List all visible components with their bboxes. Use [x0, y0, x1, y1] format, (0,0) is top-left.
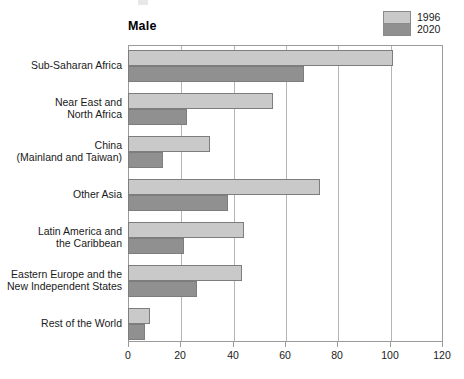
x-tick-40 — [233, 342, 234, 347]
bar-chart: 1996 2020 Male Sub-Saharan AfricaNear Ea… — [0, 0, 464, 379]
bar-2020 — [128, 66, 304, 82]
bar-1996 — [128, 93, 273, 109]
bar-group — [129, 93, 442, 125]
legend-swatch-1996 — [384, 12, 410, 24]
legend-swatch-stack — [383, 11, 411, 36]
x-tick-label: 0 — [125, 349, 131, 362]
x-tick-80 — [337, 342, 338, 347]
scan-artifact — [138, 0, 148, 5]
chart-legend: 1996 2020 — [383, 11, 440, 36]
x-axis-labels: 020406080100120 — [0, 349, 464, 365]
bar-1996 — [128, 308, 150, 324]
x-tick-label: 60 — [279, 349, 291, 362]
bar-1996 — [128, 50, 393, 66]
bar-2020 — [128, 152, 163, 168]
category-label: Rest of the World — [0, 317, 122, 329]
category-label: Near East andNorth Africa — [0, 96, 122, 120]
bar-group — [129, 136, 442, 168]
chart-title: Male — [128, 19, 157, 33]
x-tick-0 — [128, 342, 129, 347]
x-tick-100 — [390, 342, 391, 347]
x-tick-label: 100 — [381, 349, 399, 362]
bar-1996 — [128, 179, 320, 195]
legend-label-2020: 2020 — [417, 23, 440, 35]
category-label-line: Latin America and — [0, 225, 122, 237]
x-tick-60 — [285, 342, 286, 347]
x-tick-120 — [442, 342, 443, 347]
category-label: Latin America andthe Caribbean — [0, 225, 122, 249]
bar-group — [129, 308, 442, 340]
legend-label-1996: 1996 — [417, 11, 440, 23]
category-label-line: China — [0, 139, 122, 151]
category-label-line: Rest of the World — [0, 317, 122, 329]
bar-1996 — [128, 265, 242, 281]
category-label-line: Sub-Saharan Africa — [0, 59, 122, 71]
x-tick-label: 80 — [331, 349, 343, 362]
bar-2020 — [128, 238, 184, 254]
category-label-line: North Africa — [0, 108, 122, 120]
bar-2020 — [128, 281, 197, 297]
category-label: Sub-Saharan Africa — [0, 59, 122, 71]
bar-2020 — [128, 109, 187, 125]
category-label: Eastern Europe and theNew Independent St… — [0, 268, 122, 292]
bar-2020 — [128, 195, 228, 211]
x-tick-label: 40 — [227, 349, 239, 362]
category-label: Other Asia — [0, 188, 122, 200]
bar-group — [129, 179, 442, 211]
category-axis-labels: Sub-Saharan AfricaNear East andNorth Afr… — [0, 45, 122, 342]
bar-group — [129, 50, 442, 82]
category-label-line: Eastern Europe and the — [0, 268, 122, 280]
x-tick-label: 120 — [433, 349, 451, 362]
bar-1996 — [128, 222, 244, 238]
legend-swatch-2020 — [384, 24, 410, 35]
category-label-line: Near East and — [0, 96, 122, 108]
category-label-line: the Caribbean — [0, 237, 122, 249]
category-label-line: New Independent States — [0, 280, 122, 292]
bar-group — [129, 222, 442, 254]
bar-1996 — [128, 136, 210, 152]
bars-layer — [129, 46, 442, 341]
plot-area — [128, 45, 443, 342]
bar-group — [129, 265, 442, 297]
category-label-line: Other Asia — [0, 188, 122, 200]
legend-label-stack: 1996 2020 — [417, 11, 440, 35]
bar-2020 — [128, 324, 145, 340]
category-label: China(Mainland and Taiwan) — [0, 139, 122, 163]
x-tick-20 — [180, 342, 181, 347]
x-axis-ticks — [128, 342, 443, 347]
category-label-line: (Mainland and Taiwan) — [0, 151, 122, 163]
x-tick-label: 20 — [174, 349, 186, 362]
